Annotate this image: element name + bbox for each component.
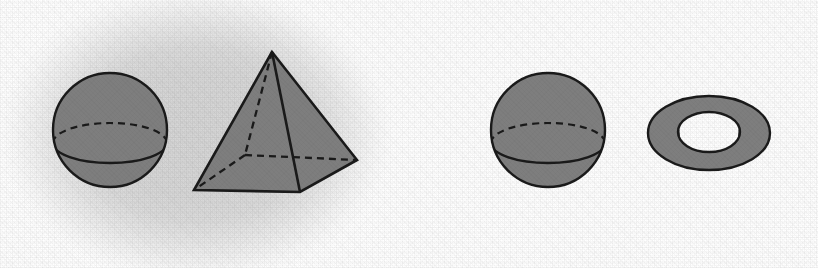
sphere-left[interactable]: [53, 73, 167, 187]
ring-fill: [644, 92, 774, 174]
ring-hole-wall-tick-left: [678, 130, 679, 136]
solids-canvas: [0, 0, 818, 268]
pyramid[interactable]: [194, 52, 357, 192]
ring-hole-wall-tick-right: [739, 130, 740, 136]
geometric-solids-figure: Geometric Solids Four shaded geometric s…: [0, 0, 818, 268]
sphere-right[interactable]: [491, 73, 605, 187]
left-panel-group: [53, 52, 357, 192]
right-panel-group: [491, 73, 774, 187]
sphere-right-body: [491, 73, 605, 187]
sphere-left-body: [53, 73, 167, 187]
ring-annulus[interactable]: [644, 92, 774, 174]
